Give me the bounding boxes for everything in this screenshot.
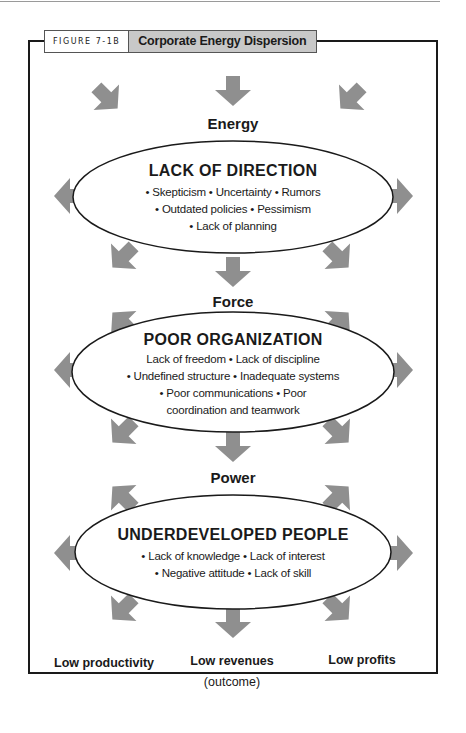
arrow-down-1-icon	[215, 257, 251, 287]
ellipse-title-poor-organization: POOR ORGANIZATION	[143, 331, 322, 349]
figure-caption: FIGURE 7-1B Corporate Energy Dispersion	[44, 30, 317, 53]
outcome-low-profits: Low profits	[328, 653, 395, 667]
ellipse-line: • Lack of knowledge • Lack of interest	[141, 548, 324, 565]
arrow-down-top-icon	[215, 76, 251, 106]
ellipse-title-underdeveloped-people: UNDERDEVELOPED PEOPLE	[117, 526, 348, 544]
ellipse-line: • Skepticism • Uncertainty • Rumors	[145, 184, 320, 201]
ellipse-line: • Negative attitude • Lack of skill	[155, 565, 311, 582]
arrow-down-3-icon	[215, 608, 251, 638]
figure-label: FIGURE 7-1B	[45, 31, 129, 52]
figure-title: Corporate Energy Dispersion	[129, 31, 315, 52]
outcome-low-productivity: Low productivity	[54, 656, 154, 670]
stage-label-energy: Energy	[208, 115, 259, 132]
arrow-down-2-icon	[215, 432, 251, 462]
ellipse-line: • Outdated policies • Pessimism	[155, 201, 311, 218]
outcome-low-revenues: Low revenues	[190, 654, 273, 668]
stage-label-power: Power	[210, 469, 255, 486]
stage-label-force: Force	[213, 293, 254, 310]
ellipse-line: Lack of freedom • Lack of discipline	[146, 351, 319, 368]
arrow-in-top-right-icon	[328, 75, 375, 122]
ellipse-title-lack-of-direction: LACK OF DIRECTION	[149, 162, 318, 180]
ellipse-line: coordination and teamwork	[166, 402, 299, 419]
ellipse-line: • Poor communications • Poor	[160, 385, 307, 402]
arrow-in-top-left-icon	[84, 75, 131, 122]
ellipse-line: • Undefined structure • Inadequate syste…	[127, 368, 340, 385]
outcome-note: (outcome)	[204, 675, 260, 689]
ellipse-line: • Lack of planning	[189, 218, 276, 235]
